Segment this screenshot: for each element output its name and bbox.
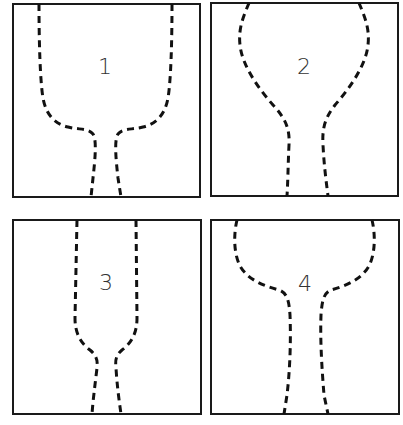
diagram-canvas: 1 2 3 4 — [0, 0, 403, 425]
outline-right — [116, 4, 172, 197]
panel-label: 1 — [98, 54, 112, 79]
outline-left — [39, 4, 95, 197]
panel-4: 4 — [211, 220, 399, 414]
panel-3: 3 — [13, 220, 201, 414]
outline-left — [235, 220, 291, 414]
panel-label: 4 — [298, 271, 312, 296]
outline-right — [116, 220, 137, 414]
outline-right — [321, 220, 375, 414]
outline-left — [240, 3, 290, 196]
panel-frame — [211, 220, 399, 414]
panel-1: 1 — [13, 4, 200, 197]
panel-label: 3 — [99, 270, 113, 295]
outline-right — [323, 3, 369, 196]
panel-label: 2 — [297, 54, 311, 79]
panel-2: 2 — [211, 3, 398, 196]
panel-frame — [13, 220, 201, 414]
outline-left — [75, 220, 97, 414]
